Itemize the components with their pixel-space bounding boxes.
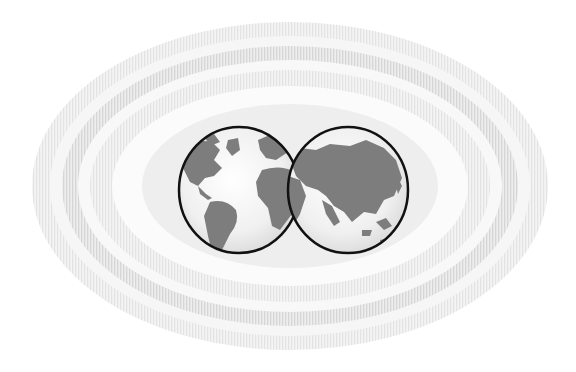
globe-western-hemisphere-icon (179, 127, 300, 253)
globe-illustration (0, 0, 576, 372)
globe-eastern-hemisphere-icon (286, 127, 408, 254)
